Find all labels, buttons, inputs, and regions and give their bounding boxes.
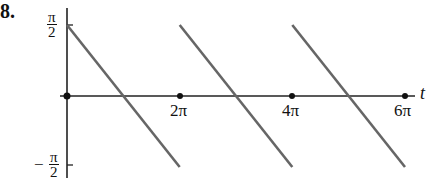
y-label-neg-pi-over-2: π 2: [49, 150, 59, 179]
y-bottom-denominator: 2: [49, 165, 59, 179]
x-axis-variable: t: [420, 83, 425, 104]
origin-dot: [64, 93, 71, 100]
x-tick-label-6pi: 6π: [394, 101, 411, 121]
x-tick-dot-6pi: [402, 93, 408, 99]
y-top-denominator: 2: [47, 25, 57, 39]
y-bottom-numerator: π: [49, 150, 59, 165]
x-tick-label-2pi: 2π: [170, 101, 187, 121]
sawtooth-chart: [0, 0, 432, 181]
x-tick-label-4pi: 4π: [282, 101, 299, 121]
x-tick-dot-2pi: [177, 93, 183, 99]
y-label-pi-over-2: π 2: [47, 10, 57, 39]
x-tick-dot-4pi: [289, 93, 295, 99]
y-bottom-sign: −: [34, 155, 44, 175]
y-top-numerator: π: [47, 10, 57, 25]
